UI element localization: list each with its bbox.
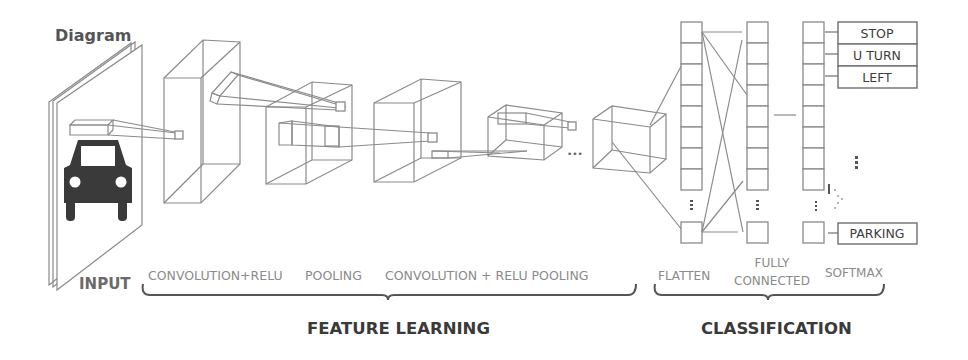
stage-label-flatten: FLATTEN xyxy=(658,269,710,283)
fc-connections xyxy=(702,32,747,232)
conv1-feature-maps xyxy=(164,40,346,203)
diagram-title: Diagram xyxy=(55,26,131,45)
feature-learning-brace xyxy=(143,284,636,300)
group-label-classification: CLASSIFICATION xyxy=(701,319,852,338)
class-outputs: STOP U TURN LEFT PARKING xyxy=(825,22,917,244)
stage-label-softmax: SOFTMAX xyxy=(825,266,883,280)
layer-ellipsis: ••• xyxy=(567,149,583,159)
class-label-stop: STOP xyxy=(861,26,894,41)
stage-label-conv1: CONVOLUTION+RELU xyxy=(148,268,283,283)
fully-connected-column xyxy=(747,22,768,243)
cnn-diagram: Diagram xyxy=(0,0,968,360)
class-label-u-turn: U TURN xyxy=(853,48,901,63)
pool1-feature-maps xyxy=(266,82,430,184)
stage-label-pool1: POOLING xyxy=(305,268,362,283)
pool2-feature-maps xyxy=(488,105,576,160)
flatten-column xyxy=(681,22,702,243)
class-label-parking: PARKING xyxy=(850,226,905,241)
stage-label-conv2-pool2: CONVOLUTION + RELU POOLING xyxy=(385,268,588,283)
stage-label-fc-line2: CONNECTED xyxy=(734,274,810,288)
group-label-feature-learning: FEATURE LEARNING xyxy=(307,319,490,338)
input-label: INPUT xyxy=(79,275,131,293)
stage-label-fc-line1: FULLY xyxy=(755,256,790,270)
class-label-left: LEFT xyxy=(862,70,892,85)
